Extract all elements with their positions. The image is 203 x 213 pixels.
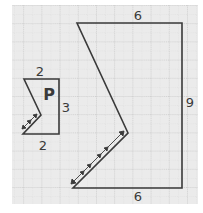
- label-p-name: P: [43, 85, 55, 104]
- label-p-bottom: 2: [39, 138, 47, 153]
- label-p-right: 3: [62, 100, 70, 115]
- similar-shapes-diagram: 2 3 2 P 6 9 6: [0, 0, 203, 213]
- label-large-top: 6: [134, 8, 142, 23]
- grid-background: [12, 5, 198, 204]
- label-large-bottom: 6: [134, 189, 142, 204]
- label-large-right: 9: [186, 95, 194, 110]
- label-p-top: 2: [36, 64, 44, 79]
